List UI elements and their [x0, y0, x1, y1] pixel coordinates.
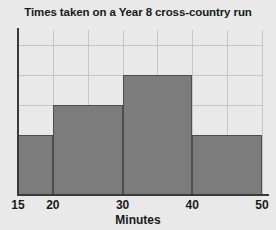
chart-title: Times taken on a Year 8 cross-country ru… — [0, 6, 276, 18]
x-tick-label: 30 — [108, 198, 138, 212]
histogram-bar — [123, 75, 193, 195]
vertical-gridline — [262, 30, 263, 195]
horizontal-gridline — [18, 45, 262, 46]
x-tick-label: 20 — [38, 198, 68, 212]
histogram-bar — [53, 105, 123, 195]
plot-area — [18, 30, 262, 195]
histogram-bar — [18, 135, 53, 195]
x-axis-line — [17, 194, 269, 196]
y-axis-line — [17, 28, 19, 196]
histogram-bar — [192, 135, 262, 195]
x-tick-label: 15 — [3, 198, 33, 212]
x-axis-title: Minutes — [0, 213, 276, 227]
x-tick-label: 40 — [177, 198, 207, 212]
x-tick-label: 50 — [247, 198, 276, 212]
histogram-chart: Times taken on a Year 8 cross-country ru… — [0, 0, 276, 230]
